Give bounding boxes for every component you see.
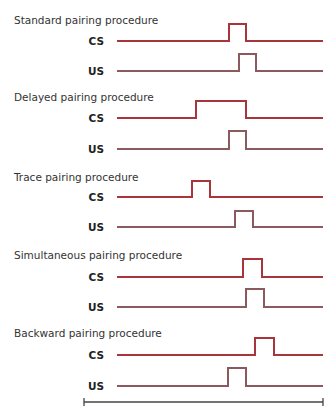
signal-trace-us (117, 368, 323, 386)
procedure-title: Backward pairing procedure (14, 327, 162, 339)
signal-label-cs: CS (89, 35, 104, 47)
signal-trace-cs (117, 24, 323, 41)
procedure-title: Standard pairing procedure (14, 14, 158, 26)
signal-label-us: US (88, 380, 104, 392)
signal-label-cs: CS (89, 112, 104, 124)
procedure-simultaneous: Simultaneous pairing procedureCSUS (14, 249, 323, 313)
signal-label-cs: CS (89, 271, 104, 283)
procedure-title: Trace pairing procedure (13, 171, 138, 183)
signal-trace-cs (117, 259, 323, 277)
signal-label-us: US (88, 221, 104, 233)
pairing-procedures-diagram: Standard pairing procedureCSUSDelayed pa… (0, 0, 336, 416)
signal-trace-us (117, 54, 323, 71)
signal-trace-us (117, 131, 323, 149)
signal-trace-us (117, 211, 323, 227)
signal-label-cs: CS (89, 349, 104, 361)
procedure-standard: Standard pairing procedureCSUS (14, 14, 323, 77)
signal-trace-cs (117, 101, 323, 118)
procedure-title: Simultaneous pairing procedure (14, 249, 182, 261)
procedure-trace: Trace pairing procedureCSUS (13, 171, 323, 233)
time-axis (84, 398, 323, 406)
procedure-backward: Backward pairing procedureCSUS (14, 327, 323, 392)
signal-trace-cs (117, 181, 323, 197)
procedure-title: Delayed pairing procedure (14, 91, 154, 103)
signal-label-us: US (88, 143, 104, 155)
signal-trace-cs (117, 338, 323, 355)
signal-label-us: US (88, 65, 104, 77)
procedure-delayed: Delayed pairing procedureCSUS (14, 91, 323, 155)
signal-label-us: US (88, 301, 104, 313)
signal-label-cs: CS (89, 191, 104, 203)
signal-trace-us (117, 289, 323, 307)
